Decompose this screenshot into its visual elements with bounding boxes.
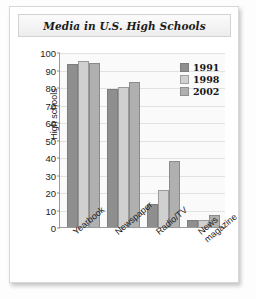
legend-swatch xyxy=(180,75,189,84)
y-axis-tick-label: 90 xyxy=(32,65,56,76)
y-axis-tick-label: 70 xyxy=(32,100,56,111)
bar-1998 xyxy=(118,87,129,227)
bar-1991 xyxy=(67,64,78,227)
chart-area: High schools 0102030405060708090100 1991… xyxy=(18,43,231,275)
bar-2002 xyxy=(89,63,100,228)
y-axis-tick-label: 80 xyxy=(32,83,56,94)
screenshot-root: Media in U.S. High Schools High schools … xyxy=(0,0,256,299)
y-axis-tick-label: 40 xyxy=(32,153,56,164)
y-axis-tick-label: 10 xyxy=(32,205,56,216)
bar-1991 xyxy=(107,89,118,227)
chart-legend: 199119982002 xyxy=(178,59,224,99)
legend-swatch xyxy=(180,87,189,96)
x-axis-labels: YearbookNewspaperRadio/TVNews magazine xyxy=(59,229,225,275)
page-title: Media in U.S. High Schools xyxy=(43,20,205,32)
bar-group xyxy=(63,53,103,227)
chart-card: Media in U.S. High Schools High schools … xyxy=(9,6,239,283)
y-axis-tick-label: 50 xyxy=(32,135,56,146)
legend-swatch xyxy=(180,63,189,72)
y-axis-tick-label: 60 xyxy=(32,118,56,129)
legend-item: 1991 xyxy=(180,61,222,73)
legend-label: 1991 xyxy=(193,62,219,73)
bar-group xyxy=(103,53,143,227)
bar-1991 xyxy=(187,220,198,227)
y-axis-tick-label: 100 xyxy=(32,48,56,59)
legend-item: 1998 xyxy=(180,73,222,85)
y-axis-tick-label: 0 xyxy=(32,223,56,234)
legend-label: 1998 xyxy=(193,74,219,85)
chart-title-band: Media in U.S. High Schools xyxy=(18,14,231,37)
legend-label: 2002 xyxy=(193,86,219,97)
legend-item: 2002 xyxy=(180,85,222,97)
plot-area: 0102030405060708090100 199119982002 xyxy=(59,53,225,228)
bar-1998 xyxy=(78,61,89,227)
bar-2002 xyxy=(129,82,140,227)
y-axis-tick-label: 30 xyxy=(32,170,56,181)
y-axis-tick-label: 20 xyxy=(32,188,56,199)
